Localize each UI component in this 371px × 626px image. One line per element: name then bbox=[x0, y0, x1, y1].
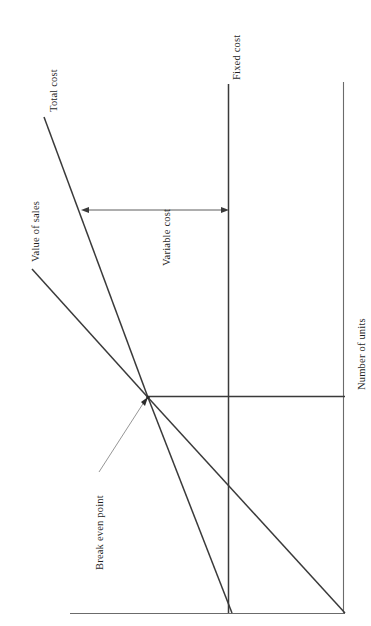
series-line-value-of-sales-lower bbox=[148, 398, 345, 614]
break-even-point-marker bbox=[146, 396, 150, 400]
series-line-total-cost-lower bbox=[148, 398, 232, 614]
label-value-of-sales: Value of sales bbox=[30, 201, 41, 262]
label-break-even-point: Break even point bbox=[94, 495, 105, 570]
label-number-of-units: Number of units bbox=[356, 318, 367, 390]
break-even-chart: Total cost Fixed cost Value of sales Var… bbox=[0, 0, 371, 626]
break-even-leader-line bbox=[99, 399, 146, 472]
series-line-value-of-sales-upper bbox=[32, 269, 148, 398]
variable-cost-arrowhead-left bbox=[81, 207, 89, 213]
label-fixed-cost: Fixed cost bbox=[231, 35, 242, 80]
label-total-cost: Total cost bbox=[48, 69, 59, 112]
series-line-total-cost-upper bbox=[44, 117, 148, 398]
label-variable-cost: Variable cost bbox=[161, 209, 172, 266]
